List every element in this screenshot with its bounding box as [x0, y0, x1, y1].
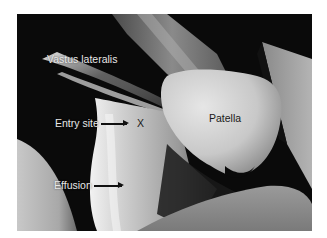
entry-site-arrow: [101, 123, 127, 125]
label-vastus-lateralis: Vastus lateralis: [47, 53, 117, 65]
knee-anatomy-illustration: Vastus lateralis Entry site X Patella Ef…: [17, 14, 312, 231]
label-patella: Patella: [209, 112, 241, 124]
label-entry-site: Entry site: [55, 117, 99, 129]
effusion-arrow: [94, 185, 122, 187]
entry-site-marker: X: [137, 117, 144, 129]
label-effusion: Effusion: [54, 179, 92, 191]
